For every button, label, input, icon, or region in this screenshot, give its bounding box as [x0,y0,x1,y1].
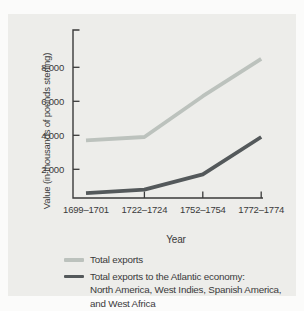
series-line-total-exports [86,59,261,141]
y-tick-label: 4,000 [41,130,64,141]
x-tick-label: 1752–1754 [180,204,226,215]
y-tick-label: 2,000 [41,164,64,175]
y-tick-label: 8,000 [41,62,64,73]
x-tick-label: 1772–1774 [238,204,284,215]
axes [73,30,263,198]
y-tick-label: 6,000 [41,96,64,107]
x-tick-label: 1699–1701 [63,204,109,215]
series-line-atlantic-exports [86,137,261,193]
line-chart: 2,0004,0006,0008,0001699–17011722–172417… [0,0,304,311]
x-tick-label: 1722–1724 [122,204,168,215]
